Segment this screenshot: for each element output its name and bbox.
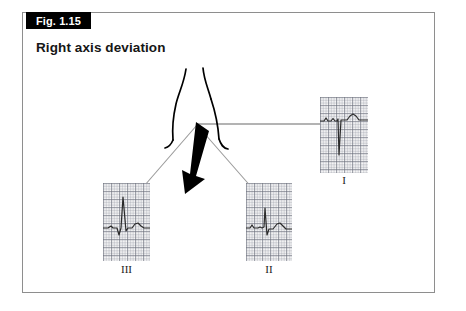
- ecg-trace-lead-I: [320, 97, 368, 173]
- ecg-label-lead-I: I: [320, 174, 368, 186]
- figure-root: Fig. 1.15 Right axis deviation: [0, 0, 466, 311]
- ecg-label-lead-III: III: [103, 263, 150, 275]
- ecg-label-lead-II: II: [246, 263, 292, 275]
- ecg-strip-lead-I: [320, 97, 368, 173]
- figure-number-tag: Fig. 1.15: [26, 12, 91, 29]
- ecg-trace-lead-II: [246, 183, 292, 261]
- ecg-strip-lead-III: [103, 183, 150, 261]
- figure-title: Right axis deviation: [36, 40, 166, 55]
- ecg-strip-lead-II: [246, 183, 292, 261]
- ecg-trace-lead-III: [103, 183, 150, 261]
